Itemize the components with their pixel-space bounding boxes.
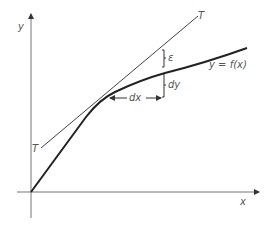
- y-axis-label: y: [18, 22, 24, 32]
- dx-label: dx: [129, 93, 141, 103]
- dy-bracket: [162, 74, 166, 97]
- epsilon-label: ε: [168, 53, 173, 63]
- x-axis-label: x: [240, 197, 246, 207]
- curve-label: y = f(x): [209, 60, 247, 70]
- tangent-label-bottom: T: [32, 144, 38, 154]
- epsilon-bracket: [162, 50, 166, 67]
- tangent-label-top: T: [198, 11, 204, 21]
- dy-label: dy: [168, 80, 180, 90]
- tangent-differential-diagram: [0, 0, 272, 227]
